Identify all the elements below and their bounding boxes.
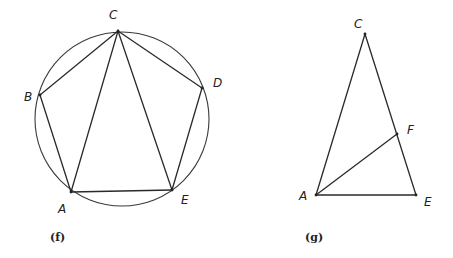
segment-ea xyxy=(71,190,172,192)
vertex-e xyxy=(415,194,418,197)
label-d: D xyxy=(213,76,222,90)
diagram-canvas: ABCDE(f) CAEF(g) xyxy=(0,0,453,258)
vertex-a xyxy=(315,194,318,197)
figure-f-pentagon-in-circle: ABCDE(f) xyxy=(24,8,222,244)
label-e: E xyxy=(424,195,432,209)
label-a: A xyxy=(298,189,307,203)
vertex-c xyxy=(117,30,120,33)
vertex-d xyxy=(201,87,204,90)
vertex-b xyxy=(39,94,42,97)
label-a: A xyxy=(57,202,66,216)
vertex-c xyxy=(364,33,367,36)
label-b: B xyxy=(24,90,32,104)
segment-af xyxy=(316,134,397,195)
segment-bc xyxy=(40,31,118,95)
segment-ce xyxy=(118,31,172,190)
segment-ce xyxy=(365,34,416,195)
segment-de xyxy=(172,88,202,190)
vertex-a xyxy=(70,191,73,194)
figure-caption-g: (g) xyxy=(305,231,323,244)
segment-ab xyxy=(40,95,71,192)
segment-cd xyxy=(118,31,202,88)
vertex-f xyxy=(396,133,399,136)
label-c: C xyxy=(354,17,363,31)
vertex-e xyxy=(171,189,174,192)
circumscribed-circle xyxy=(35,32,209,206)
figure-g-triangle: CAEF(g) xyxy=(298,17,432,244)
figure-caption-f: (f) xyxy=(50,231,65,244)
segment-ca xyxy=(316,34,365,195)
label-f: F xyxy=(407,123,415,137)
segment-ca xyxy=(71,31,118,192)
label-e: E xyxy=(181,193,189,207)
label-c: C xyxy=(109,8,118,22)
